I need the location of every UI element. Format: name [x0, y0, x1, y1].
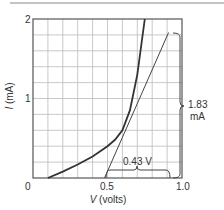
x-tick-0-5: 0.5 — [100, 181, 114, 192]
voltage-annotation: 0.43 V — [123, 156, 152, 167]
x-tick-0: 0 — [25, 181, 31, 192]
voltage-brace — [106, 166, 170, 178]
grid — [33, 19, 182, 178]
y-tick-1: 1 — [25, 93, 31, 104]
x-axis-label: V (volts) — [90, 194, 127, 205]
y-tick-2: 2 — [25, 14, 31, 25]
current-annotation-unit: mA — [190, 111, 205, 122]
diode-iv-chart: 2 1 0 0.5 1.0 V (volts) I (mA) 0.43 V 1.… — [0, 0, 224, 210]
x-tick-1-0: 1.0 — [176, 181, 190, 192]
current-annotation-value: 1.83 — [188, 99, 208, 110]
y-axis-label: I (mA) — [4, 82, 15, 109]
